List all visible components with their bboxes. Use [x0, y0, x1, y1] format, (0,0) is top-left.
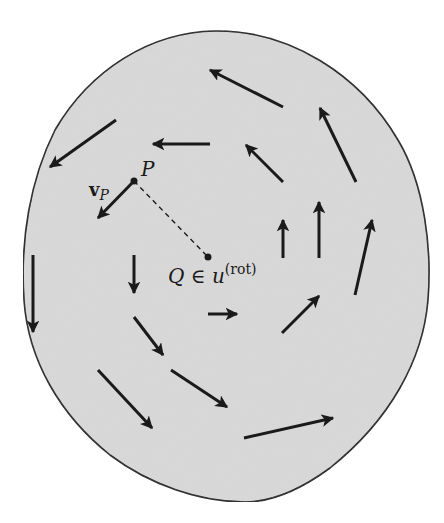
rotation-diagram: P vP Q ∈ u(rot) — [0, 0, 444, 523]
rot-superscript: (rot) — [225, 261, 257, 277]
point-p-label: P — [140, 157, 155, 181]
velocity-subscript: P — [98, 187, 109, 203]
point-p-dot — [131, 178, 138, 185]
q-membership-text: Q ∈ u — [168, 264, 225, 288]
velocity-v-symbol: v — [88, 179, 100, 200]
point-q-dot — [205, 254, 212, 261]
